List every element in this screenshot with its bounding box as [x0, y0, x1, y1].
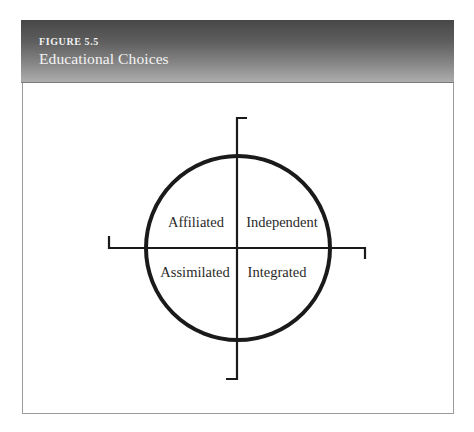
quadrant-label-assimilated: Assimilated: [160, 264, 230, 280]
quadrant-label-affiliated: Affiliated: [168, 214, 225, 230]
quadrant-label-independent: Independent: [246, 214, 318, 230]
quadrant-label-integrated: Integrated: [248, 264, 308, 280]
quadrant-diagram: Affiliated Independent Assimilated Integ…: [0, 0, 474, 432]
